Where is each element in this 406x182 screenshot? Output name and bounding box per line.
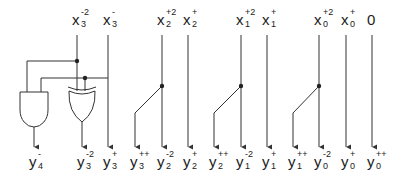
label-subscript: 1 <box>297 162 302 171</box>
wire-branch-y1pp <box>293 86 319 147</box>
label-superscript: -2 <box>166 150 174 159</box>
label-subscript: 2 <box>192 162 197 171</box>
label-subscript: 3 <box>112 162 117 171</box>
label-superscript: +2 <box>323 8 333 17</box>
input-label-x3m2: x-23 <box>72 12 80 27</box>
label-base: y <box>77 153 85 170</box>
label-base: y <box>262 153 270 170</box>
input-label-x0p2: x+20 <box>314 12 322 27</box>
input-label-x2p2: x+22 <box>157 12 165 27</box>
and-gate <box>20 92 48 127</box>
xor-gate <box>69 91 95 122</box>
label-base: y <box>236 153 244 170</box>
output-label-y3pp: y++3 <box>130 154 138 169</box>
label-base: x <box>236 11 244 28</box>
junction-dot <box>83 76 87 80</box>
junction-dot <box>317 84 321 88</box>
label-base: y <box>367 153 375 170</box>
input-label-x1p: x+1 <box>262 12 270 27</box>
xor-gate-back <box>68 87 96 90</box>
input-label-x2p: x+2 <box>183 12 191 27</box>
output-label-y0m2: y-20 <box>314 154 322 169</box>
label-subscript: 3 <box>112 20 117 29</box>
label-superscript: - <box>112 8 115 17</box>
label-superscript: +2 <box>245 8 255 17</box>
label-subscript: 3 <box>81 20 86 29</box>
label-subscript: 0 <box>323 20 328 29</box>
output-label-y3m2: y-23 <box>77 154 85 169</box>
input-label-x1p2: x+21 <box>236 12 244 27</box>
label-base: y <box>314 153 322 170</box>
label-base: 0 <box>367 11 375 28</box>
label-superscript: + <box>271 8 276 17</box>
label-base: y <box>103 153 111 170</box>
label-subscript: 0 <box>323 162 328 171</box>
label-superscript: -2 <box>86 150 94 159</box>
label-base: y <box>157 153 165 170</box>
output-label-y0p: y+0 <box>341 154 349 169</box>
label-subscript: 0 <box>350 20 355 29</box>
label-base: x <box>183 11 191 28</box>
label-base: x <box>341 11 349 28</box>
junction-dot <box>160 84 164 88</box>
output-label-y3p: y+3 <box>103 154 111 169</box>
output-label-y1m2: y-21 <box>236 154 244 169</box>
label-subscript: 2 <box>166 162 171 171</box>
label-superscript: ++ <box>218 150 229 159</box>
wire-branch-y2pp <box>214 86 241 147</box>
input-label-x3m: x-3 <box>103 12 111 27</box>
output-label-y2pp: y++2 <box>209 154 217 169</box>
junction-dot <box>75 59 79 63</box>
label-superscript: + <box>112 150 117 159</box>
label-base: x <box>314 11 322 28</box>
label-base: y <box>209 153 217 170</box>
junction-dot <box>239 84 243 88</box>
label-base: y <box>341 153 349 170</box>
wire-and-in2 <box>41 78 108 92</box>
label-subscript: 2 <box>166 20 171 29</box>
label-superscript: -2 <box>245 150 253 159</box>
output-label-y2m2: y-22 <box>157 154 165 169</box>
label-superscript: -2 <box>81 8 89 17</box>
label-superscript: + <box>192 150 197 159</box>
label-base: y <box>130 153 138 170</box>
label-superscript: - <box>38 150 41 159</box>
label-subscript: 2 <box>192 20 197 29</box>
output-label-y0pp: y++0 <box>367 154 375 169</box>
label-subscript: 1 <box>271 162 276 171</box>
label-subscript: 1 <box>245 162 250 171</box>
label-subscript: 1 <box>271 20 276 29</box>
label-subscript: 2 <box>218 162 223 171</box>
label-superscript: + <box>271 150 276 159</box>
input-label-x0p: x+0 <box>341 12 349 27</box>
label-superscript: ++ <box>297 150 308 159</box>
label-subscript: 0 <box>350 162 355 171</box>
output-label-y1p: y+1 <box>262 154 270 169</box>
label-superscript: +2 <box>166 8 176 17</box>
label-base: x <box>262 11 270 28</box>
label-subscript: 0 <box>376 162 381 171</box>
label-superscript: + <box>350 8 355 17</box>
label-base: x <box>72 11 80 28</box>
label-superscript: -2 <box>323 150 331 159</box>
label-subscript: 3 <box>139 162 144 171</box>
label-base: y <box>183 153 191 170</box>
label-base: y <box>288 153 296 170</box>
label-subscript: 3 <box>86 162 91 171</box>
label-base: y <box>29 153 37 170</box>
label-superscript: ++ <box>376 150 387 159</box>
label-subscript: 1 <box>245 20 250 29</box>
label-superscript: + <box>192 8 197 17</box>
output-label-y4m: y-4 <box>29 154 37 169</box>
wire-branch-y3pp <box>135 86 162 147</box>
output-label-y2p: y+2 <box>183 154 191 169</box>
label-base: x <box>157 11 165 28</box>
label-superscript: ++ <box>139 150 150 159</box>
input-label-zero: 0 <box>367 12 375 27</box>
label-base: x <box>103 11 111 28</box>
label-subscript: 4 <box>38 162 43 171</box>
label-superscript: + <box>350 150 355 159</box>
output-label-y1pp: y++1 <box>288 154 296 169</box>
